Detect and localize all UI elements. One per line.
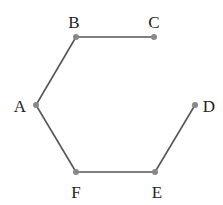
node-label-d: D <box>203 97 215 116</box>
node-label-b: B <box>68 13 79 32</box>
node-label-c: C <box>148 13 159 32</box>
node-point-c <box>151 34 157 40</box>
node-point-e <box>152 169 158 175</box>
edge-af <box>36 105 76 172</box>
node-label-a: A <box>14 97 27 116</box>
labels: A B C D E F <box>14 13 215 202</box>
edges <box>36 37 195 172</box>
node-point-b <box>73 34 79 40</box>
nodes <box>33 34 198 175</box>
node-point-a <box>33 102 39 108</box>
node-point-f <box>73 169 79 175</box>
node-label-e: E <box>152 183 162 202</box>
edge-ab <box>36 37 76 105</box>
node-point-d <box>192 102 198 108</box>
graph-diagram: A B C D E F <box>0 0 223 205</box>
node-label-f: F <box>71 183 80 202</box>
edge-ed <box>155 105 195 172</box>
